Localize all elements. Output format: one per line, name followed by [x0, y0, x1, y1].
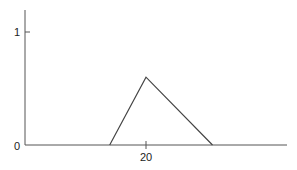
x-tick-label-20: 20	[140, 152, 152, 163]
chart-canvas	[0, 0, 297, 170]
y-tick-label-0: 0	[14, 141, 20, 152]
triangle-series	[110, 77, 213, 145]
y-tick-label-1: 1	[14, 27, 20, 38]
